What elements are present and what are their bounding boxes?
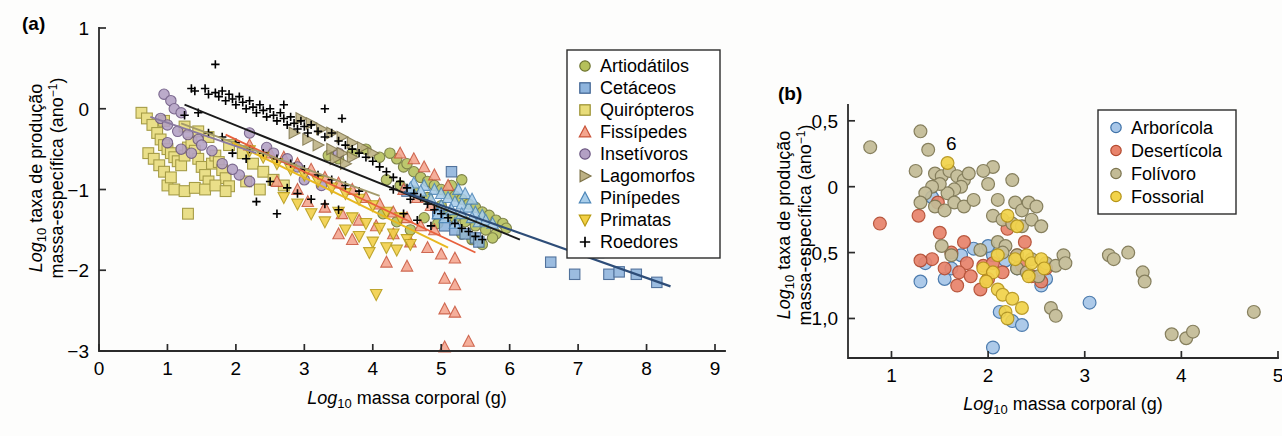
data-point — [367, 237, 378, 248]
data-point — [912, 209, 925, 222]
data-point — [967, 193, 980, 206]
x-tick-label: 5 — [1273, 365, 1282, 386]
data-point — [179, 186, 190, 197]
y-axis-title: Log10 taxa de produçãomassa-específica (… — [26, 78, 67, 279]
data-point — [977, 164, 990, 177]
data-point — [278, 193, 289, 204]
data-point — [909, 164, 922, 177]
data-point — [227, 164, 237, 174]
legend-marker-circle-icon — [1111, 145, 1121, 155]
data-point — [938, 262, 951, 275]
legend-label: Fissípedes — [600, 122, 687, 142]
data-point — [974, 244, 987, 257]
data-point — [926, 253, 939, 266]
panel-b: 123450,50−0,5−1,0 6 ArborícolaDesertícol… — [760, 0, 1282, 436]
data-point — [935, 240, 948, 253]
data-point — [1016, 302, 1029, 315]
x-tick-label: 3 — [1079, 365, 1090, 386]
legend-marker-circle-icon — [1111, 191, 1121, 201]
data-point — [1083, 296, 1096, 309]
figure-root: 012345678910−1−2−3 ArtiodátilosCetáceosQ… — [0, 0, 1282, 436]
data-point — [982, 178, 995, 191]
data-point — [991, 249, 1004, 262]
panel-b-legend[interactable]: ArborícolaDesertícolaFolívoroFossorial — [1098, 110, 1236, 214]
data-point — [449, 252, 460, 263]
data-point — [313, 139, 324, 150]
x-axis-title: Log10 massa corporal (g) — [963, 394, 1163, 417]
data-point — [446, 167, 456, 177]
data-point — [338, 114, 346, 122]
data-point — [1001, 209, 1014, 222]
data-point — [958, 236, 971, 249]
y-tick-label: 1 — [78, 18, 89, 39]
y-tick-label: −1 — [67, 180, 89, 201]
data-point — [165, 172, 176, 183]
data-point — [418, 161, 429, 172]
data-point — [1022, 270, 1035, 283]
x-tick-label: 3 — [299, 358, 310, 379]
data-point — [604, 269, 614, 279]
data-point — [429, 169, 440, 180]
data-point — [321, 105, 329, 113]
data-point — [319, 217, 330, 228]
legend-label: Pinípedes — [600, 188, 680, 208]
data-point — [864, 141, 877, 154]
legend-marker-square-icon — [580, 83, 590, 93]
svg-text:massa-específica (ano−1): massa-específica (ano−1) — [794, 125, 815, 326]
data-point — [211, 60, 219, 68]
legend-label: Quirópteros — [600, 100, 694, 120]
x-tick-label: 4 — [367, 358, 378, 379]
y-tick-label: 0 — [78, 99, 89, 120]
data-point — [217, 158, 227, 168]
legend-label: Lagomorfos — [600, 166, 695, 186]
data-point — [1138, 275, 1151, 288]
svg-text:Log10 taxa de produção: Log10 taxa de produção — [26, 84, 49, 273]
data-point — [210, 180, 221, 191]
data-point — [176, 144, 186, 154]
data-point — [401, 260, 412, 271]
data-point — [1030, 200, 1043, 213]
y-tick-label: −3 — [67, 341, 89, 362]
legend-label: Primatas — [600, 210, 671, 230]
legend-label: Folívoro — [1131, 164, 1196, 184]
data-point — [248, 158, 259, 169]
data-point — [1107, 253, 1120, 266]
data-point — [1122, 246, 1135, 259]
data-point — [1016, 319, 1029, 332]
x-tick-label: 1 — [162, 358, 173, 379]
panel-a-tag: (a) — [22, 13, 45, 34]
x-tick-label: 2 — [231, 358, 242, 379]
panel-a-legend[interactable]: ArtiodátilosCetáceosQuirópterosFissípede… — [567, 50, 720, 258]
data-point — [1006, 174, 1019, 187]
data-point — [169, 184, 180, 195]
data-point — [962, 167, 975, 180]
data-point — [1049, 309, 1062, 322]
legend-label: Desertícola — [1131, 141, 1223, 161]
data-point — [546, 257, 556, 267]
data-point — [1035, 220, 1048, 233]
panel-a: 012345678910−1−2−3 ArtiodátilosCetáceosQ… — [0, 0, 760, 436]
data-point — [408, 153, 419, 164]
x-tick-label: 5 — [436, 358, 447, 379]
series-fissípedes — [244, 139, 474, 352]
x-tick-label: 2 — [983, 365, 994, 386]
data-point — [463, 335, 474, 346]
data-point — [292, 199, 303, 210]
data-point — [1038, 262, 1051, 275]
x-tick-label: 0 — [94, 358, 105, 379]
legend-marker-circle-icon — [1111, 122, 1121, 132]
legend-marker-square-icon — [580, 105, 590, 115]
data-point — [382, 168, 390, 176]
data-point — [186, 148, 196, 158]
data-point — [991, 193, 1004, 206]
data-point — [941, 157, 954, 170]
data-point — [207, 146, 217, 156]
panel-b-annotations: 6 — [946, 133, 957, 154]
data-point — [914, 275, 927, 288]
data-point — [980, 275, 993, 288]
data-point — [1009, 253, 1022, 266]
legend-label: Artiodátilos — [600, 56, 689, 76]
data-point — [1165, 328, 1178, 341]
data-point — [439, 272, 450, 283]
data-point — [162, 137, 172, 147]
